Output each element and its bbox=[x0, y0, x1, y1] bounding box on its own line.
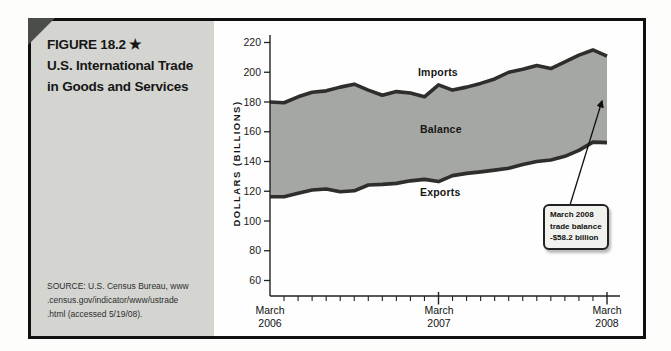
chart-area: 6080100120140160180200220 DOLLARS (BILLI… bbox=[214, 21, 643, 336]
figure-title-line-1: U.S. International Trade bbox=[47, 55, 204, 76]
corner-fold-triangle bbox=[28, 18, 55, 45]
y-tick-label: 80 bbox=[249, 244, 261, 256]
y-tick-label: 60 bbox=[249, 274, 261, 286]
figure-number-text: FIGURE 18.2 bbox=[47, 37, 126, 52]
source-line-3: .html (accessed 5/19/08). bbox=[47, 307, 204, 321]
y-tick-label: 100 bbox=[243, 215, 261, 227]
figure-heading: FIGURE 18.2 ★ U.S. International Trade i… bbox=[47, 34, 204, 97]
figure-number: FIGURE 18.2 ★ bbox=[47, 34, 204, 55]
exports-series-label: Exports bbox=[420, 186, 461, 198]
x-tick-label-march-2006: March 2006 bbox=[248, 304, 292, 330]
imports-series-label: Imports bbox=[418, 66, 458, 78]
x-tick-label-march-2007: March 2007 bbox=[417, 304, 461, 330]
source-line-1: SOURCE: U.S. Census Bureau, www bbox=[47, 279, 204, 293]
trade-balance-callout: March 2008 trade balance -$58.2 billion bbox=[543, 204, 609, 250]
star-icon: ★ bbox=[129, 36, 142, 52]
sidebar-spacer bbox=[47, 97, 204, 279]
y-tick-label: 140 bbox=[243, 155, 261, 167]
figure-panel: FIGURE 18.2 ★ U.S. International Trade i… bbox=[28, 18, 646, 339]
y-axis-title: DOLLARS (BILLIONS) bbox=[231, 64, 242, 264]
y-tick-label: 180 bbox=[243, 96, 261, 108]
figure-title-line-2: in Goods and Services bbox=[47, 76, 204, 97]
source-line-2: .census.gov/indicator/www/ustrade bbox=[47, 293, 204, 307]
source-note: SOURCE: U.S. Census Bureau, www .census.… bbox=[47, 279, 204, 321]
y-tick-label: 120 bbox=[243, 185, 261, 197]
y-tick-label: 160 bbox=[243, 125, 261, 137]
x-tick-label-march-2008: March 2008 bbox=[585, 304, 629, 330]
callout-line-3: -$58.2 billion bbox=[550, 232, 602, 244]
figure-sidebar: FIGURE 18.2 ★ U.S. International Trade i… bbox=[31, 21, 214, 336]
y-tick-label: 200 bbox=[243, 66, 261, 78]
y-tick-label: 220 bbox=[243, 36, 261, 48]
balance-band-label: Balance bbox=[420, 123, 462, 135]
callout-line-2: trade balance bbox=[550, 221, 602, 233]
callout-line-1: March 2008 bbox=[550, 209, 602, 221]
